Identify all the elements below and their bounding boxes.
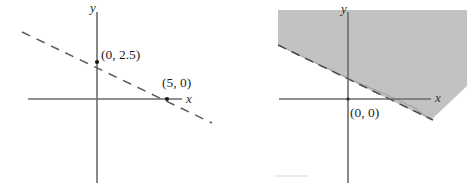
figure-root: y x (0, 2.5) (5, 0) — [0, 0, 470, 187]
graph-panel-right: y x (0, 0) — [235, 0, 470, 187]
point-label-0-2p5: (0, 2.5) — [101, 47, 140, 62]
point-marker-x-intercept — [165, 97, 169, 101]
point-label-5-0: (5, 0) — [162, 75, 191, 90]
y-axis-label-right: y — [339, 1, 347, 16]
x-axis-label-left: x — [185, 91, 192, 106]
graph-panel-left: y x (0, 2.5) (5, 0) — [0, 0, 235, 187]
x-axis-label-right: x — [434, 90, 441, 105]
point-label-origin: (0, 0) — [350, 105, 379, 120]
y-axis-label-left: y — [88, 0, 96, 15]
point-marker-origin — [346, 97, 349, 100]
point-marker-y-intercept — [95, 60, 99, 64]
